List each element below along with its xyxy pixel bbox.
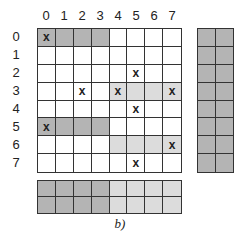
grid-cell: [56, 83, 74, 101]
grid-cell: x: [127, 101, 145, 119]
grid-cell: [145, 83, 163, 101]
grid-cell: [110, 101, 128, 119]
bottom-cell: [163, 181, 181, 197]
grid-cell: [127, 47, 145, 65]
bottom-cell: [56, 197, 74, 213]
grid-cell: [127, 83, 145, 101]
grid-cell: [92, 83, 110, 101]
row-label: 5: [7, 119, 25, 135]
side-cell: [216, 101, 234, 119]
grid-cell: [110, 118, 128, 136]
grid-cell: [92, 65, 110, 83]
x-mark: x: [79, 84, 86, 98]
side-cell: [216, 65, 234, 83]
grid-cell: [38, 136, 56, 154]
bottom-cell: [38, 197, 56, 213]
bottom-cell: [145, 181, 163, 197]
grid-cell: [145, 136, 163, 154]
bottom-cell: [92, 197, 110, 213]
x-mark: x: [132, 102, 139, 116]
grid-cell: x: [127, 154, 145, 172]
grid-cell: [163, 65, 181, 83]
grid-cell: [38, 47, 56, 65]
figure-caption: b): [100, 216, 140, 232]
side-cell: [216, 136, 234, 154]
grid-cell: [38, 154, 56, 172]
side-cell: [216, 83, 234, 101]
column-label: 4: [109, 8, 127, 24]
side-cell: [216, 118, 234, 136]
grid-cell: [56, 101, 74, 119]
main-grid: xxxxxxxxx: [37, 28, 182, 173]
grid-cell: x: [127, 65, 145, 83]
bottom-cell: [38, 181, 56, 197]
column-label: 2: [73, 8, 91, 24]
grid-cell: [145, 101, 163, 119]
bottom-cell: [110, 197, 128, 213]
side-cell: [198, 101, 216, 119]
column-label: 5: [127, 8, 145, 24]
side-cell: [198, 154, 216, 172]
row-label: 0: [7, 29, 25, 45]
row-label: 2: [7, 65, 25, 81]
column-label: 7: [163, 8, 181, 24]
grid-cell: [163, 118, 181, 136]
grid-cell: [56, 47, 74, 65]
side-cell: [198, 118, 216, 136]
grid-cell: [92, 29, 110, 47]
row-label: 6: [7, 137, 25, 153]
grid-cell: [145, 47, 163, 65]
bottom-cell: [92, 181, 110, 197]
grid-cell: [74, 154, 92, 172]
grid-cell: x: [38, 118, 56, 136]
bottom-cell: [74, 181, 92, 197]
x-mark: x: [43, 120, 50, 134]
row-label: 4: [7, 101, 25, 117]
grid-cell: [38, 101, 56, 119]
column-label: 1: [55, 8, 73, 24]
grid-cell: x: [38, 29, 56, 47]
grid-cell: [74, 29, 92, 47]
grid-cell: [74, 101, 92, 119]
grid-cell: [92, 101, 110, 119]
grid-cell: [163, 101, 181, 119]
grid-cell: [74, 47, 92, 65]
side-grid: [197, 28, 234, 173]
grid-cell: [74, 118, 92, 136]
grid-cell: [56, 136, 74, 154]
grid-cell: [74, 136, 92, 154]
x-mark: x: [169, 84, 176, 98]
grid-cell: [145, 154, 163, 172]
column-label: 0: [37, 8, 55, 24]
bottom-cell: [74, 197, 92, 213]
side-cell: [198, 136, 216, 154]
grid-cell: x: [110, 83, 128, 101]
side-cell: [198, 47, 216, 65]
grid-cell: [92, 118, 110, 136]
bottom-cell: [127, 181, 145, 197]
row-label: 1: [7, 47, 25, 63]
x-mark: x: [43, 30, 50, 44]
grid-cell: [127, 136, 145, 154]
side-cell: [198, 83, 216, 101]
grid-cell: [38, 83, 56, 101]
bottom-grid: [37, 180, 182, 214]
grid-cell: [92, 154, 110, 172]
grid-cell: [92, 136, 110, 154]
grid-cell: [145, 118, 163, 136]
grid-cell: [127, 118, 145, 136]
grid-cell: [56, 65, 74, 83]
grid-cell: [56, 118, 74, 136]
grid-cell: [74, 65, 92, 83]
x-mark: x: [132, 66, 139, 80]
grid-cell: x: [74, 83, 92, 101]
grid-cell: [92, 47, 110, 65]
x-mark: x: [132, 156, 139, 170]
grid-cell: [110, 47, 128, 65]
side-cell: [216, 154, 234, 172]
x-mark: x: [115, 84, 122, 98]
grid-cell: x: [163, 83, 181, 101]
grid-cell: [163, 47, 181, 65]
x-mark: x: [169, 138, 176, 152]
grid-cell: [145, 65, 163, 83]
